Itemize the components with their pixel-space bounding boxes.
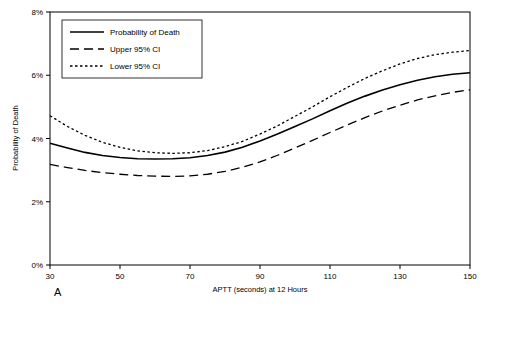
x-tick-label: 130: [393, 272, 407, 281]
y-tick-label: 6%: [31, 71, 43, 80]
figure-panel-a: 30507090110130150 0%2%4%6%8% Probability…: [0, 0, 512, 338]
legend-label-2: Upper 95% CI: [110, 45, 160, 54]
x-tick-label: 50: [116, 272, 125, 281]
x-tick-label: 30: [46, 272, 55, 281]
y-tick-label: 8%: [31, 8, 43, 17]
x-tick-label: 70: [186, 272, 195, 281]
x-axis-ticks: 30507090110130150: [46, 265, 478, 281]
x-tick-label: 110: [324, 272, 337, 281]
y-tick-label: 2%: [31, 198, 43, 207]
y-axis-label: Probability of Death: [11, 105, 20, 170]
series-line-probability-of-death: [50, 73, 470, 159]
y-tick-label: 0%: [31, 261, 43, 270]
x-tick-label: 150: [463, 272, 477, 281]
probability-of-death-chart: 30507090110130150 0%2%4%6%8% Probability…: [0, 0, 512, 338]
legend-label-3: Lower 95% CI: [110, 62, 160, 71]
x-tick-label: 90: [256, 272, 265, 281]
panel-letter: A: [54, 286, 62, 298]
x-axis-label: APTT (seconds) at 12 Hours: [213, 285, 308, 294]
chart-legend: Probability of DeathUpper 95% CILower 95…: [62, 20, 202, 78]
y-axis-ticks: 0%2%4%6%8%: [31, 8, 50, 270]
series-line-lower-95-ci: [50, 90, 470, 177]
legend-label-1: Probability of Death: [110, 28, 180, 37]
y-tick-label: 4%: [31, 135, 43, 144]
